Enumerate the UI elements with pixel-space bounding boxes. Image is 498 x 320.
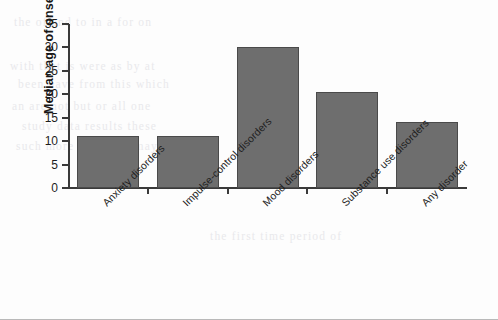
y-axis-tick [62, 140, 69, 142]
y-axis-tick [62, 46, 69, 48]
y-axis-tick-label: 10 [32, 134, 58, 148]
chart-figure: the of and to in a for on with that is w… [0, 0, 498, 320]
y-axis-tick [62, 70, 69, 72]
y-axis-tick [62, 23, 69, 25]
y-axis-tick [62, 93, 69, 95]
ghost-text-line: the of and to in a for on [14, 16, 484, 28]
x-axis-tick [227, 187, 229, 194]
y-axis-tick-label: 5 [32, 158, 58, 172]
y-axis-tick-label: 30 [32, 40, 58, 54]
y-axis-tick-label: 0 [32, 181, 58, 195]
y-axis-tick-label: 35 [32, 17, 58, 31]
y-axis-tick [62, 117, 69, 119]
y-axis-tick-label: 25 [32, 64, 58, 78]
ghost-text-line: the first time period of [210, 230, 490, 242]
y-axis-tick [62, 164, 69, 166]
x-axis-tick [306, 187, 308, 194]
x-axis-tick [386, 187, 388, 194]
y-axis-tick-label: 20 [32, 87, 58, 101]
x-axis-tick [147, 187, 149, 194]
y-axis-tick-label: 15 [32, 111, 58, 125]
